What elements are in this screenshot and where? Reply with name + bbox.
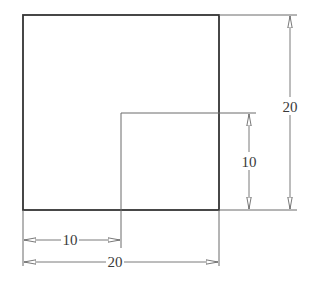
- dimension-bottom-inner: 10: [24, 232, 120, 248]
- technical-drawing: 20 10 10 20: [0, 0, 314, 285]
- dimension-right-outer: 20: [282, 16, 298, 209]
- dimension-label: 10: [63, 232, 78, 248]
- dimension-label: 10: [242, 154, 257, 170]
- dimension-right-inner: 10: [241, 114, 257, 209]
- dimension-label: 20: [108, 254, 123, 270]
- dimension-label: 20: [283, 99, 298, 115]
- dimension-bottom-outer: 20: [24, 254, 218, 270]
